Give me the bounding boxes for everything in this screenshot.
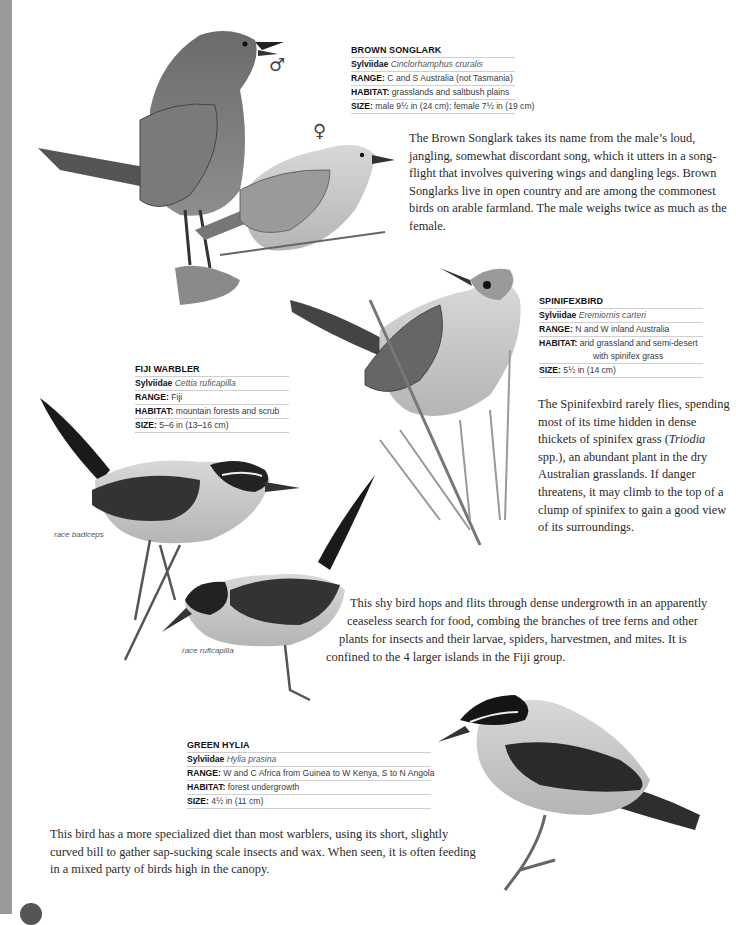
family-name: Sylviidae: [351, 59, 388, 69]
scientific-name: Cettia ruficapilla: [175, 378, 236, 388]
habitat-value: grasslands and saltbush plains: [392, 87, 510, 97]
habitat-label: HABITAT:: [187, 782, 225, 792]
spinifexbird-illustration: [290, 268, 521, 545]
range-label: RANGE:: [135, 392, 169, 402]
size-label: SIZE:: [187, 796, 209, 806]
habitat-row: HABITAT: forest undergrowth: [187, 781, 431, 795]
description-genus: Triodia: [669, 432, 706, 446]
description-line: plants for insects and their larvae, spi…: [339, 631, 687, 649]
habitat-value: forest undergrowth: [228, 782, 300, 792]
spinifexbird-info-block: SPINIFEXBIRD Sylviidae Eremiornis carter…: [539, 295, 703, 378]
species-name: BROWN SONGLARK: [351, 44, 515, 58]
size-value: 4½ in (11 cm): [211, 796, 263, 806]
size-label: SIZE:: [539, 365, 561, 375]
range-label: RANGE:: [539, 324, 573, 334]
size-value: 5–6 in (13–16 cm): [159, 420, 228, 430]
range-row: RANGE: W and C Africa from Guinea to W K…: [187, 767, 431, 781]
species-name: SPINIFEXBIRD: [539, 295, 703, 309]
habitat-label: HABITAT:: [351, 87, 389, 97]
taxonomy-row: Sylviidae Cinclorhamphus cruralis: [351, 58, 515, 72]
green-hylia-info-block: GREEN HYLIA Sylviidae Hylia prasina RANG…: [187, 739, 431, 809]
green-hylia-description: This bird has a more specialized diet th…: [50, 826, 482, 879]
family-name: Sylviidae: [539, 310, 576, 320]
range-row: RANGE: Fiji: [135, 391, 289, 405]
habitat-value: mountain forests and scrub: [176, 406, 280, 416]
brown-songlark-info-block: BROWN SONGLARK Sylviidae Cinclorhamphus …: [351, 44, 515, 114]
size-label: SIZE:: [351, 101, 373, 111]
taxonomy-row: Sylviidae Hylia prasina: [187, 753, 431, 767]
habitat-label: HABITAT:: [135, 406, 173, 416]
race-ruficapilla-caption: race ruficapilla: [182, 646, 234, 655]
species-name: GREEN HYLIA: [187, 739, 431, 753]
species-name: FIJI WARBLER: [135, 363, 289, 377]
description-text-2: spp.), an abundant plant in the dry Aust…: [538, 450, 726, 534]
habitat-value: arid grassland and semi-desert: [580, 338, 698, 348]
range-row: RANGE: C and S Australia (not Tasmania): [351, 72, 515, 86]
scientific-name: Eremiornis carteri: [579, 310, 646, 320]
male-symbol: ♂: [269, 56, 285, 74]
habitat-row: HABITAT: arid grassland and semi-desert: [539, 337, 703, 350]
taxonomy-row: Sylviidae Eremiornis carteri: [539, 309, 703, 323]
spinifexbird-description: The Spinifexbird rarely flies, spending …: [538, 396, 734, 537]
description-line: This shy bird hops and flits through den…: [350, 595, 707, 613]
family-name: Sylviidae: [187, 754, 224, 764]
range-value: W and C Africa from Guinea to W Kenya, S…: [223, 768, 434, 778]
size-value: male 9½ in (24 cm); female 7½ in (19 cm): [375, 101, 534, 111]
habitat-row: HABITAT: mountain forests and scrub: [135, 405, 289, 419]
race-badiceps-caption: race badiceps: [54, 530, 104, 539]
brown-songlark-male-illustration: [38, 31, 284, 305]
size-row: SIZE: male 9½ in (24 cm); female 7½ in (…: [351, 100, 515, 114]
range-row: RANGE: N and W inland Australia: [539, 323, 703, 337]
fiji-warbler-info-block: FIJI WARBLER Sylviidae Cettia ruficapill…: [135, 363, 289, 433]
size-row: SIZE: 5–6 in (13–16 cm): [135, 419, 289, 433]
brown-songlark-description: The Brown Songlark takes its name from t…: [409, 130, 731, 236]
range-value: C and S Australia (not Tasmania): [387, 73, 512, 83]
scientific-name: Hylia prasina: [227, 754, 277, 764]
size-value: 5½ in (14 cm): [563, 365, 616, 375]
habitat-continuation: with spinifex grass: [539, 350, 703, 364]
range-label: RANGE:: [351, 73, 385, 83]
scientific-name: Cinclorhamphus cruralis: [391, 59, 483, 69]
size-row: SIZE: 5½ in (14 cm): [539, 364, 703, 378]
description-line: confined to the 4 larger islands in the …: [326, 649, 565, 667]
range-label: RANGE:: [187, 768, 221, 778]
description-line: ceaseless search for food, combing the b…: [347, 613, 698, 631]
range-value: N and W inland Australia: [575, 324, 669, 334]
size-row: SIZE: 4½ in (11 cm): [187, 795, 431, 809]
habitat-label: HABITAT:: [539, 338, 577, 348]
size-label: SIZE:: [135, 420, 157, 430]
habitat-row: HABITAT: grasslands and saltbush plains: [351, 86, 515, 100]
female-symbol: ♀: [313, 122, 326, 140]
taxonomy-row: Sylviidae Cettia ruficapilla: [135, 377, 289, 391]
family-name: Sylviidae: [135, 378, 172, 388]
range-value: Fiji: [171, 392, 182, 402]
